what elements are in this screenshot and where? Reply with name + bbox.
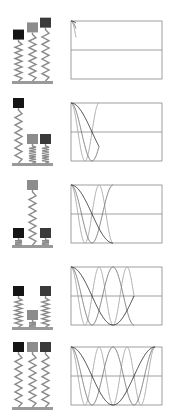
mass-block-left [13, 228, 24, 238]
panel-svg [0, 326, 171, 416]
panel-3 [0, 164, 171, 254]
spring-middle [29, 190, 36, 245]
spring-left [15, 352, 22, 407]
spring-left [15, 296, 22, 327]
mass-block-left [13, 98, 24, 108]
spring-middle [29, 144, 36, 163]
spring-middle [29, 32, 36, 81]
oscillation-diagram [0, 0, 171, 419]
mass-block-middle [27, 134, 38, 144]
spring-right [42, 352, 49, 407]
spring-right [42, 296, 49, 327]
spring-middle [29, 352, 36, 407]
panel-5 [0, 326, 171, 416]
spring-right [42, 144, 49, 163]
mass-block-left [13, 342, 24, 352]
mass-block-left [13, 286, 24, 296]
panel-4 [0, 246, 171, 336]
panel-2 [0, 82, 171, 172]
spring-right [42, 28, 49, 81]
mass-block-right [40, 342, 51, 352]
panel-svg [0, 246, 171, 336]
mass-block-middle [27, 310, 38, 320]
panel-svg [0, 0, 171, 90]
panel-1 [0, 0, 171, 90]
mass-block-middle [27, 342, 38, 352]
panel-svg [0, 82, 171, 172]
mass-block-right [40, 134, 51, 144]
base-plate [12, 407, 53, 410]
panel-svg [0, 164, 171, 254]
mass-block-right [40, 18, 51, 28]
mass-block-middle [27, 180, 38, 190]
mass-block-right [40, 228, 51, 238]
mass-block-middle [27, 22, 38, 32]
mass-block-left [13, 30, 24, 40]
spring-right [42, 238, 49, 245]
mass-block-right [40, 286, 51, 296]
spring-left [15, 108, 22, 163]
spring-left [15, 40, 22, 81]
spring-left [15, 238, 22, 245]
